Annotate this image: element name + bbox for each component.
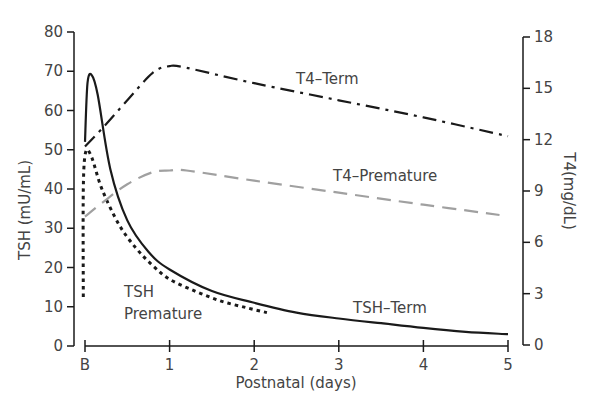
left-tick-label: 20 — [44, 259, 63, 277]
left-tick-label: 60 — [44, 102, 63, 120]
annotation-t4-premature: T4–Premature — [332, 167, 437, 185]
left-tick-label: 10 — [44, 298, 63, 316]
left-tick-label: 0 — [53, 337, 63, 355]
right-y-axis: 0369121518 — [523, 28, 553, 354]
x-tick-label: 5 — [503, 356, 513, 374]
annotation-tsh-premature-line2: Premature — [124, 305, 202, 323]
annotation-tsh-term: TSH–Term — [352, 299, 427, 317]
x-tick-label: B — [80, 356, 90, 374]
right-y-axis-title: T4(mg/dL) — [560, 151, 578, 229]
x-tick-label: 2 — [249, 356, 259, 374]
right-tick-label: 0 — [534, 336, 544, 354]
left-tick-label: 70 — [44, 62, 63, 80]
x-tick-label: 1 — [165, 356, 175, 374]
x-tick-label: 3 — [334, 356, 344, 374]
x-axis: B12345 — [80, 340, 513, 374]
right-tick-label: 3 — [534, 285, 544, 303]
right-tick-label: 18 — [534, 28, 553, 46]
chart-canvas: 01020304050607080 0369121518 B12345 Post… — [0, 0, 595, 416]
left-tick-label: 30 — [44, 219, 63, 237]
left-tick-label: 40 — [44, 180, 63, 198]
x-tick-label: 4 — [419, 356, 429, 374]
x-axis-title: Postnatal (days) — [235, 374, 356, 392]
left-tick-label: 50 — [44, 141, 63, 159]
right-tick-label: 6 — [534, 233, 544, 251]
series-line-t4-premature — [85, 170, 500, 217]
annotation-t4-term: T4–Term — [295, 70, 359, 88]
right-tick-label: 15 — [534, 79, 553, 97]
left-tick-label: 80 — [44, 23, 63, 41]
left-y-axis-title: TSH (mU/mL) — [16, 160, 34, 261]
right-tick-label: 12 — [534, 131, 553, 149]
right-tick-label: 9 — [534, 182, 544, 200]
annotation-tsh-premature-line1: TSH — [123, 283, 154, 301]
left-y-axis: 01020304050607080 — [44, 23, 74, 355]
